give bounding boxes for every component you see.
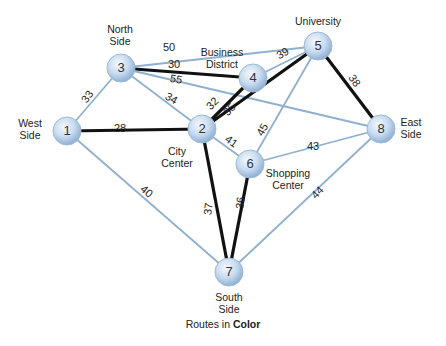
node-number: 8	[377, 121, 384, 136]
edge-1-7	[67, 131, 229, 272]
edge-weight-8-7: 44	[309, 184, 326, 201]
place-label-8: EastSide	[400, 116, 421, 140]
route-network-diagram: 3328405030553432353938454143373644 12345…	[0, 0, 446, 346]
node-8: 8	[367, 115, 395, 143]
node-number: 5	[314, 38, 321, 53]
place-label-2: CityCenter	[161, 145, 193, 169]
place-label-3: NorthSide	[107, 23, 133, 47]
node-number: 3	[117, 60, 124, 75]
place-label-7: SouthSide	[215, 291, 243, 315]
edge-weight-1-7: 40	[138, 183, 155, 200]
diagram-caption: Routes in Color	[0, 318, 446, 330]
node-5: 5	[304, 32, 332, 60]
node-number: 2	[198, 121, 205, 136]
edge-weight-2-7: 37	[201, 202, 214, 215]
node-1: 1	[53, 117, 81, 145]
node-3: 3	[107, 54, 135, 82]
place-label-4: BusinessDistrict	[201, 46, 244, 70]
edge-weight-2-4: 32	[204, 95, 221, 112]
edge-1-2-route	[67, 129, 202, 131]
edge-weight-6-8: 43	[307, 140, 319, 152]
node-2: 2	[188, 115, 216, 143]
edge-weight-3-4: 30	[168, 58, 180, 70]
node-4: 4	[239, 64, 267, 92]
node-number: 6	[246, 156, 253, 171]
caption-prefix: Routes in	[186, 318, 230, 330]
node-number: 4	[249, 70, 256, 85]
edge-weight-4-5: 39	[274, 45, 291, 62]
edge-weight-1-2: 28	[114, 122, 126, 134]
edge-weight-1-3: 33	[79, 88, 96, 105]
place-label-5: University	[295, 15, 342, 27]
edge-weight-3-8: 55	[169, 72, 183, 86]
edge-2-7-route	[202, 129, 229, 272]
edge-weight-6-7: 36	[233, 196, 246, 209]
place-label-1: WestSide	[18, 117, 42, 141]
place-label-6: ShoppingCenter	[266, 167, 311, 191]
node-number: 7	[225, 264, 232, 279]
node-7: 7	[215, 258, 243, 286]
edge-weight-3-2: 34	[163, 90, 180, 107]
caption-bold: Color	[233, 318, 260, 330]
node-number: 1	[63, 123, 70, 138]
edge-weight-5-6: 45	[254, 121, 271, 138]
edge-weight-3-5: 50	[163, 41, 175, 53]
node-6: 6	[236, 150, 264, 178]
